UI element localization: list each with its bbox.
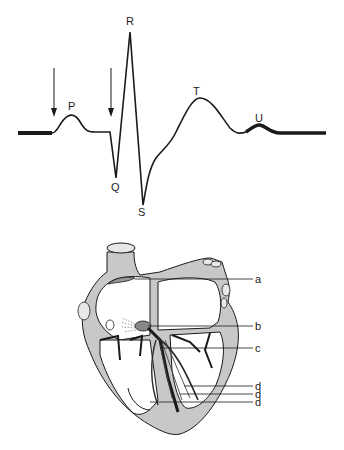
tricuspid-valve (100, 336, 142, 360)
heart-label-b: b (255, 320, 261, 332)
arrow-down-icon (108, 68, 114, 117)
purkinje-fibers (160, 340, 190, 400)
label-leaders (135, 279, 253, 402)
wave-label-u: U (255, 112, 263, 124)
right-atrium (96, 277, 150, 340)
wave-label-p: P (68, 100, 75, 112)
atrial-fold (108, 277, 135, 284)
left-bundle-branch (158, 338, 198, 400)
coronary-sinus (106, 320, 114, 330)
right-bundle-branch (152, 340, 158, 405)
vena-cava (78, 302, 90, 320)
ecg-u-wave (246, 125, 326, 133)
heart-label-c: c (255, 342, 261, 354)
bundle-of-his (148, 328, 178, 412)
heart-outer-wall (82, 252, 238, 435)
mitral-valve (172, 333, 212, 368)
wave-label-t: T (193, 85, 200, 97)
aorta-opening (107, 243, 135, 253)
pulmonary-vein (222, 284, 230, 296)
wave-label-r: R (126, 15, 134, 27)
wave-label-s: S (138, 206, 145, 218)
ecg-diagram: P R Q S T U (0, 0, 344, 225)
pulmonary-vein (203, 259, 213, 265)
sa-fibers (121, 318, 136, 332)
heart-label-a: a (255, 273, 262, 285)
heart-label-d1: d (255, 380, 261, 392)
arrow-down-icon (51, 68, 57, 117)
ecg-trace (52, 32, 246, 205)
pulmonary-vein (221, 298, 227, 308)
av-node (135, 321, 151, 331)
heart-label-d3: d (255, 396, 261, 408)
left-ventricle (170, 332, 223, 408)
papillary-muscle (128, 388, 150, 410)
wave-label-q: Q (111, 181, 120, 193)
heart-label-d2: d (255, 388, 261, 400)
left-atrium (158, 278, 221, 330)
pulmonary-vein (211, 261, 221, 267)
right-ventricle (100, 340, 158, 414)
